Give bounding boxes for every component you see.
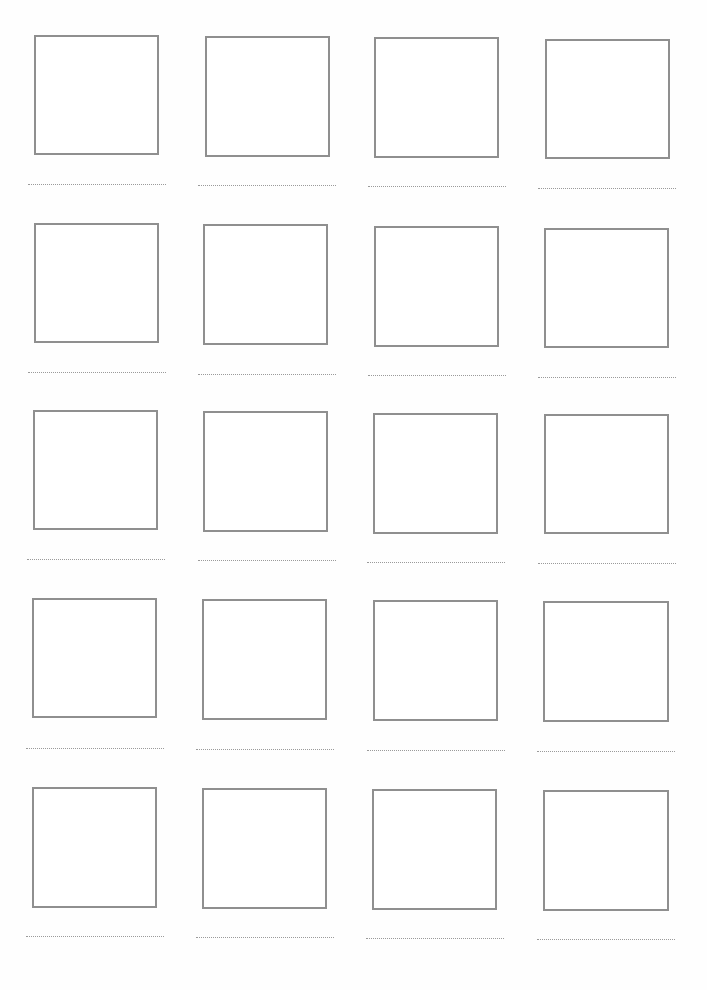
drawing-box-r1-c2 — [205, 36, 330, 157]
drawing-box-r2-c1 — [34, 223, 159, 343]
drawing-box-r4-c4 — [543, 601, 669, 722]
caption-line-r3-c1 — [27, 559, 165, 560]
drawing-box-r2-c2 — [203, 224, 328, 345]
caption-line-r2-c2 — [198, 374, 336, 375]
drawing-box-r1-c1 — [34, 35, 159, 155]
caption-line-r2-c3 — [368, 375, 506, 376]
drawing-box-r1-c3 — [374, 37, 499, 158]
drawing-box-r5-c3 — [372, 789, 497, 910]
caption-line-r4-c1 — [26, 748, 164, 749]
drawing-box-r3-c3 — [373, 413, 498, 534]
drawing-box-r2-c4 — [544, 228, 669, 348]
drawing-box-r3-c1 — [33, 410, 158, 530]
caption-line-r5-c1 — [26, 936, 164, 937]
drawing-box-r3-c2 — [203, 411, 328, 532]
drawing-box-r2-c3 — [374, 226, 499, 347]
caption-line-r1-c1 — [28, 184, 166, 185]
drawing-box-r4-c1 — [32, 598, 157, 718]
drawing-box-r5-c1 — [32, 787, 157, 908]
caption-line-r3-c3 — [367, 562, 505, 563]
drawing-box-r4-c2 — [202, 599, 327, 720]
caption-line-r2-c4 — [538, 377, 676, 378]
drawing-box-r1-c4 — [545, 39, 670, 159]
caption-line-r1-c4 — [538, 188, 676, 189]
caption-line-r1-c3 — [368, 186, 506, 187]
caption-line-r5-c3 — [366, 938, 504, 939]
caption-line-r5-c4 — [537, 939, 675, 940]
caption-line-r3-c4 — [538, 563, 676, 564]
caption-line-r4-c3 — [367, 750, 505, 751]
drawing-box-r4-c3 — [373, 600, 498, 721]
caption-line-r1-c2 — [198, 185, 336, 186]
caption-line-r3-c2 — [198, 560, 336, 561]
drawing-box-r3-c4 — [544, 414, 669, 534]
drawing-box-r5-c2 — [202, 788, 327, 909]
drawing-box-r5-c4 — [543, 790, 669, 911]
worksheet-page — [0, 0, 707, 990]
caption-line-r4-c4 — [537, 751, 675, 752]
caption-line-r2-c1 — [28, 372, 166, 373]
caption-line-r5-c2 — [196, 937, 334, 938]
caption-line-r4-c2 — [196, 749, 334, 750]
